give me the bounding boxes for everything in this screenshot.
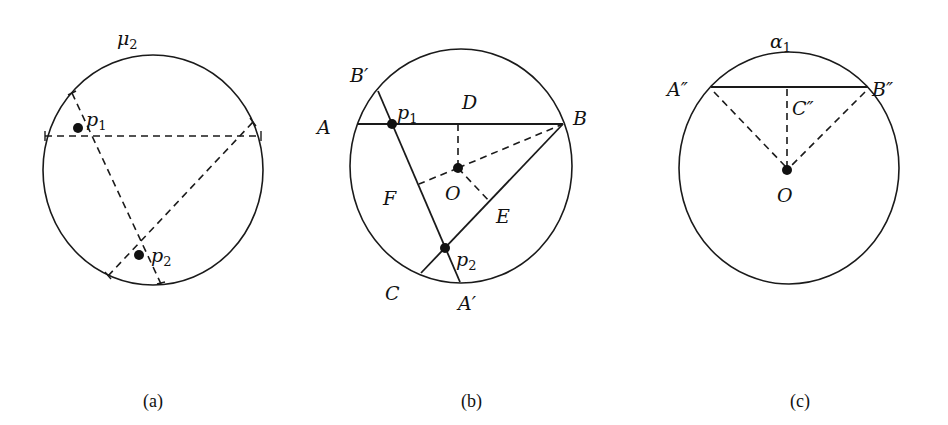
label-p2: p2: [151, 244, 171, 269]
label-Aprime: A′: [456, 292, 477, 314]
label-C: C: [385, 282, 400, 304]
label-A2: A″: [665, 78, 688, 100]
point-p1: [73, 123, 83, 133]
dashed-OA2: [714, 92, 785, 166]
point-p1: [387, 119, 397, 129]
figure-a: μ2 p1 p2 (a): [43, 27, 263, 412]
label-O: O: [777, 184, 793, 206]
point-p2: [440, 243, 450, 253]
figure-b: B′ p1 D A B O F E p2 C A′ (b): [315, 49, 587, 412]
dashed-OE: [458, 168, 490, 202]
caption-b: (b): [461, 391, 482, 412]
figure-c: α1 A″ B″ C″ O (c): [665, 30, 899, 412]
caption-c: (c): [790, 391, 810, 412]
label-E: E: [495, 205, 510, 227]
label-B: B: [572, 107, 587, 129]
geometry-figure: μ2 p1 p2 (a) B′ p1 D A B O F E p2 C A′ (…: [0, 0, 948, 425]
point-O: [453, 163, 463, 173]
label-alpha1: α1: [770, 30, 791, 55]
caption-a: (a): [143, 391, 163, 412]
label-p1: p1: [86, 108, 106, 133]
label-B2: B″: [871, 78, 893, 100]
label-O: O: [445, 182, 461, 204]
label-p1: p1: [397, 101, 417, 126]
label-Bprime: B′: [349, 64, 369, 86]
label-F: F: [382, 187, 397, 209]
label-A: A: [315, 116, 331, 138]
dashed-OB: [458, 124, 563, 168]
label-D: D: [461, 91, 477, 113]
label-C2: C″: [792, 97, 814, 119]
label-p2: p2: [456, 248, 476, 273]
dashed-chord-diagonal: [108, 122, 253, 276]
label-mu2: μ2: [117, 27, 138, 52]
point-O: [782, 165, 792, 175]
point-p2: [134, 250, 144, 260]
